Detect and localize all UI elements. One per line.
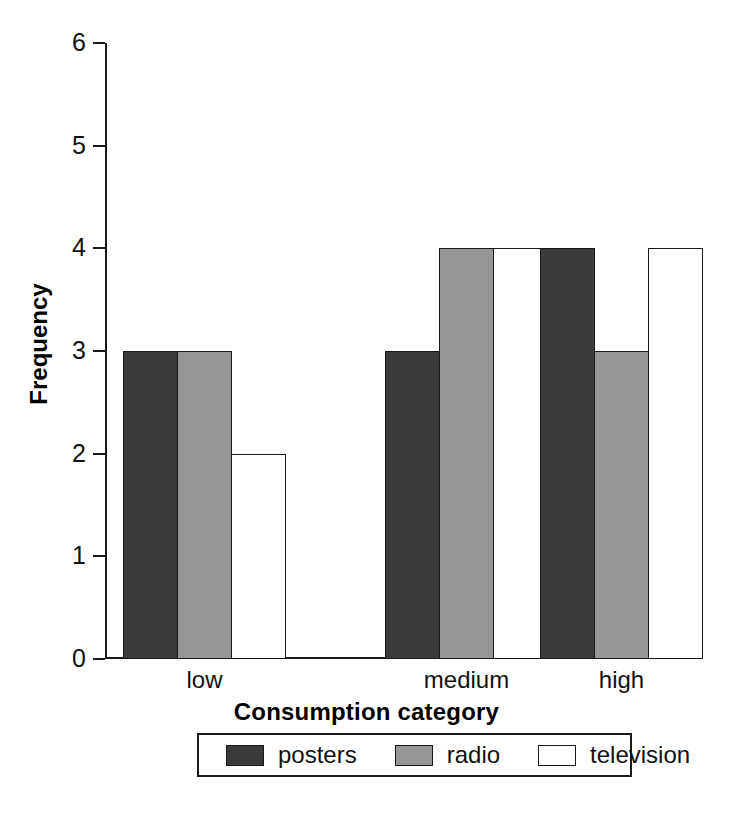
bar-low-television[interactable]	[231, 454, 286, 659]
legend-label-posters: posters	[278, 743, 357, 767]
bar-high-radio[interactable]	[594, 351, 649, 659]
y-axis-tick-label-wrap: 5	[38, 133, 86, 158]
legend-entry-radio[interactable]: radio	[395, 735, 500, 775]
y-axis-tick-label-wrap: 0	[38, 646, 86, 671]
legend-entry-posters[interactable]: posters	[226, 735, 357, 775]
bar-low-radio[interactable]	[177, 351, 232, 659]
y-axis-tick-label-wrap: 4	[38, 235, 86, 260]
legend-swatch-television	[538, 745, 576, 766]
legend-swatch-posters	[226, 745, 264, 766]
legend-label-television: television	[590, 743, 690, 767]
legend-swatch-radio	[395, 745, 433, 766]
bar-group-high	[540, 43, 703, 659]
bar-medium-radio[interactable]	[439, 248, 494, 659]
x-axis-title: Consumption category	[0, 698, 733, 726]
y-axis-tick	[93, 555, 105, 557]
bar-group-low	[123, 43, 286, 659]
y-axis-tick-label: 4	[46, 235, 86, 260]
y-axis-tick-label-wrap: 1	[38, 543, 86, 568]
y-axis-tick	[93, 658, 105, 660]
y-axis-tick	[93, 453, 105, 455]
y-axis-tick-label: 1	[46, 543, 86, 568]
bar-group-medium	[385, 43, 548, 659]
y-axis-tick	[93, 42, 105, 44]
y-axis-tick-label: 2	[46, 441, 86, 466]
plot-area	[105, 43, 661, 659]
y-axis-tick-label: 5	[46, 133, 86, 158]
bar-chart-figure: Frequency 0123456 lowmediumhigh Consumpt…	[0, 0, 733, 813]
bar-high-television[interactable]	[648, 248, 703, 659]
x-axis-label-low: low	[105, 666, 305, 694]
y-axis-tick-label: 3	[46, 338, 86, 363]
y-axis-tick	[93, 247, 105, 249]
legend-label-radio: radio	[447, 743, 500, 767]
y-axis-tick-label-wrap: 3	[38, 338, 86, 363]
bar-high-posters[interactable]	[540, 248, 595, 659]
y-axis-tick-label: 6	[46, 30, 86, 55]
legend-entry-television[interactable]: television	[538, 735, 690, 775]
y-axis-tick	[93, 350, 105, 352]
chart-legend: postersradiotelevision	[197, 733, 632, 777]
x-axis-label-high: high	[522, 666, 722, 694]
y-axis-tick-label-wrap: 2	[38, 441, 86, 466]
y-axis-tick	[93, 145, 105, 147]
bar-medium-posters[interactable]	[385, 351, 440, 659]
bar-low-posters[interactable]	[123, 351, 178, 659]
y-axis-tick-label: 0	[46, 646, 86, 671]
y-axis-tick-label-wrap: 6	[38, 30, 86, 55]
